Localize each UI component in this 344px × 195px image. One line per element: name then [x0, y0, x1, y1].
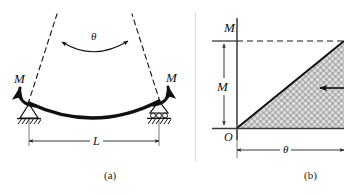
- angle-label: θ: [91, 31, 96, 42]
- tangent-line-left: [28, 14, 57, 104]
- span-label: L: [90, 135, 103, 147]
- roller-support-hatching: [148, 119, 171, 124]
- deflected-beam: [29, 101, 159, 118]
- panel-a: M M θ L (a): [0, 0, 196, 195]
- panel-b-graphics: [196, 0, 344, 195]
- caption-b: (b): [304, 170, 317, 181]
- moment-label-left: M: [14, 72, 25, 85]
- vertical-axis-label: M: [224, 21, 235, 34]
- moment-label-right: M: [166, 71, 177, 84]
- angle-arc: [62, 41, 128, 52]
- figure-root: M M θ L (a): [0, 0, 344, 195]
- origin-label: O: [224, 131, 233, 143]
- panel-a-graphics: [0, 0, 196, 195]
- pin-support-hatching: [18, 119, 41, 124]
- tangent-line-right: [132, 14, 160, 102]
- abscissa-label: θ: [280, 144, 291, 155]
- ordinate-label: M: [216, 78, 229, 95]
- caption-a: (a): [104, 170, 116, 181]
- roller-support-rollers: [151, 113, 168, 118]
- panel-b: M M O θ (b): [196, 0, 344, 195]
